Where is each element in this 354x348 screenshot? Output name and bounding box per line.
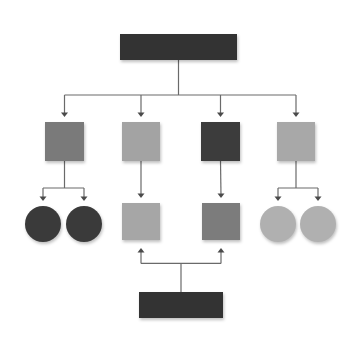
node-bottom-root bbox=[139, 292, 223, 318]
node-level2-d2 bbox=[300, 206, 336, 242]
node-level2-a1 bbox=[25, 206, 61, 242]
node-level1-a bbox=[45, 122, 84, 161]
arrow-down-icon bbox=[81, 197, 88, 202]
arrow-up-icon bbox=[138, 248, 145, 253]
arrow-up-icon bbox=[218, 248, 225, 253]
node-level2-c bbox=[202, 203, 240, 240]
node-level2-d1 bbox=[260, 206, 296, 242]
arrow-down-icon bbox=[138, 194, 145, 199]
node-level1-c bbox=[201, 122, 240, 161]
arrow-down-icon bbox=[40, 197, 47, 202]
node-level2-a2 bbox=[66, 206, 102, 242]
node-top-root bbox=[120, 34, 237, 60]
node-level1-d bbox=[277, 122, 315, 161]
hierarchy-diagram bbox=[0, 0, 354, 348]
arrow-down-icon bbox=[315, 197, 322, 202]
arrow-down-icon bbox=[293, 113, 300, 118]
arrow-down-icon bbox=[275, 197, 282, 202]
arrow-down-icon bbox=[61, 113, 68, 118]
arrow-down-icon bbox=[138, 113, 145, 118]
arrow-down-icon bbox=[217, 113, 224, 118]
node-level1-b bbox=[122, 122, 160, 161]
connector-lines bbox=[40, 60, 322, 292]
arrow-down-icon bbox=[218, 194, 225, 199]
node-level2-b bbox=[122, 203, 160, 240]
connector-line bbox=[221, 161, 222, 196]
